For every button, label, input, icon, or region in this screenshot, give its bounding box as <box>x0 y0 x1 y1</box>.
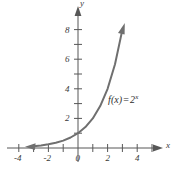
x-tick-label-2: 2 <box>106 154 111 163</box>
y-tick-label-6: 6 <box>65 55 70 64</box>
function-curve <box>31 30 123 147</box>
x-axis-arrowhead <box>153 145 163 152</box>
plot-canvas <box>0 0 171 173</box>
x-tick-label-0: 0 <box>76 154 81 163</box>
y-tick-label-8: 8 <box>65 26 70 35</box>
x-tick-label--4: -4 <box>14 154 22 163</box>
x-axis-label: x <box>166 141 170 150</box>
x-tick-label-4: 4 <box>135 154 140 163</box>
y-tick-label-2: 2 <box>65 114 70 123</box>
x-tick-label--2: -2 <box>44 154 52 163</box>
y-tick-label-4: 4 <box>65 85 70 94</box>
curve-right-arrowhead <box>118 23 125 35</box>
curve-label-equals: = <box>122 94 130 105</box>
curve-label-function: f(x) <box>108 94 122 105</box>
curve-label-exponent: x <box>135 93 138 101</box>
y-axis-label: y <box>80 0 84 8</box>
exponential-function-graph: -4 -2 0 2 4 2 4 6 8 y x f(x)=2x <box>0 0 171 173</box>
curve-left-arrowhead <box>25 143 36 150</box>
curve-equation-label: f(x)=2x <box>108 94 138 105</box>
